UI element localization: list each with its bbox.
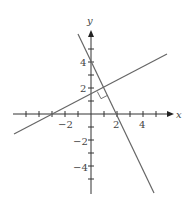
x-axis-label: x xyxy=(176,109,182,120)
x-axis-arrow-icon xyxy=(167,111,174,117)
y-axis-label: y xyxy=(86,15,93,26)
y-tick-label-neg4: −4 xyxy=(73,162,88,173)
y-tick-label-4: 4 xyxy=(80,57,86,68)
x-tick-label-2: 2 xyxy=(113,119,119,130)
y-tick-label-2: 2 xyxy=(80,83,86,94)
x-tick-label-neg2: −2 xyxy=(58,119,73,130)
y-tick-label-neg2: −2 xyxy=(73,136,88,147)
y-axis-arrow-icon xyxy=(88,30,94,37)
x-tick-label-4: 4 xyxy=(139,119,145,130)
coordinate-plane: −2 2 4 4 2 −2 −4 x y xyxy=(0,0,184,207)
